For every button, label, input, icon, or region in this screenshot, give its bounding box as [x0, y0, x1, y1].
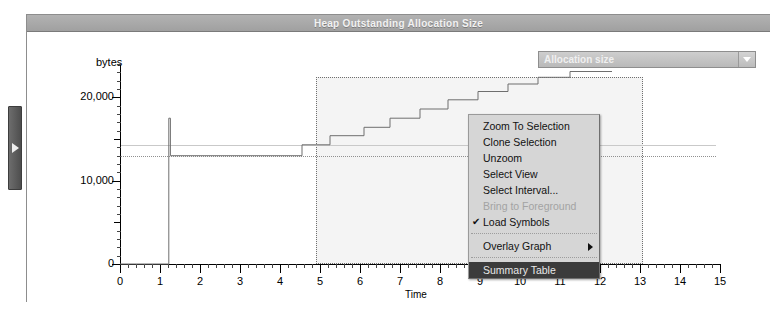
x-axis-tick-label: 3: [225, 275, 255, 287]
x-axis-minor-tick: [296, 264, 297, 268]
menu-item-label: Zoom To Selection: [483, 120, 570, 132]
y-axis-minor-tick: [117, 164, 121, 165]
x-axis-tick: [640, 264, 641, 273]
x-axis-minor-tick: [408, 264, 409, 268]
x-axis-tick: [240, 264, 241, 273]
x-axis-minor-tick: [688, 264, 689, 268]
x-axis-minor-tick: [176, 264, 177, 268]
x-axis-minor-tick: [424, 264, 425, 268]
x-axis-tick: [120, 264, 121, 273]
y-axis-minor-tick: [117, 231, 121, 232]
menu-item-unzoom[interactable]: Unzoom: [469, 150, 599, 166]
y-axis-title: bytes: [96, 56, 122, 68]
x-axis-minor-tick: [704, 264, 705, 268]
y-axis-minor-tick: [117, 172, 121, 173]
x-axis-minor-tick: [456, 264, 457, 268]
menu-item-select-view[interactable]: Select View: [469, 166, 599, 182]
x-axis-minor-tick: [664, 264, 665, 268]
menu-item-overlay-graph[interactable]: Overlay Graph: [469, 238, 599, 254]
x-axis-tick: [400, 264, 401, 273]
y-axis-minor-tick: [117, 64, 121, 65]
x-axis-tick: [680, 264, 681, 273]
y-axis-minor-tick: [117, 81, 121, 82]
chevron-down-icon[interactable]: [738, 52, 755, 67]
menu-item-label: Summary Table: [483, 264, 556, 276]
x-axis-minor-tick: [136, 264, 137, 268]
y-axis-minor-tick: [117, 114, 121, 115]
x-axis-minor-tick: [712, 264, 713, 268]
x-axis-tick-label: 4: [265, 275, 295, 287]
x-axis-minor-tick: [608, 264, 609, 268]
menu-item-label: Unzoom: [483, 152, 522, 164]
y-axis-minor-tick: [117, 197, 121, 198]
x-axis-minor-tick: [224, 264, 225, 268]
x-axis-minor-tick: [304, 264, 305, 268]
x-axis-minor-tick: [288, 264, 289, 268]
x-axis-minor-tick: [216, 264, 217, 268]
screenshot-root: Heap Outstanding Allocation Size bytes T…: [0, 0, 776, 323]
x-axis-minor-tick: [632, 264, 633, 268]
menu-item-clone-selection[interactable]: Clone Selection: [469, 134, 599, 150]
x-axis-minor-tick: [464, 264, 465, 268]
x-axis-tick: [320, 264, 321, 273]
x-axis-minor-tick: [184, 264, 185, 268]
x-axis-minor-tick: [336, 264, 337, 268]
metric-select[interactable]: Allocation size: [538, 51, 756, 68]
x-axis-minor-tick: [392, 264, 393, 268]
x-axis-minor-tick: [616, 264, 617, 268]
x-axis-tick-label: 14: [665, 275, 695, 287]
x-axis-minor-tick: [344, 264, 345, 268]
metric-select-value: Allocation size: [539, 54, 738, 65]
menu-item-label: Select Interval...: [483, 184, 558, 196]
menu-item-zoom-to-selection[interactable]: Zoom To Selection: [469, 118, 599, 134]
x-axis-tick-label: 8: [425, 275, 455, 287]
y-axis-minor-tick: [117, 214, 121, 215]
menu-item-label: Load Symbols: [483, 216, 550, 228]
x-axis-tick: [200, 264, 201, 273]
x-axis-tick-label: 13: [625, 275, 655, 287]
x-axis-minor-tick: [256, 264, 257, 268]
x-axis-minor-tick: [696, 264, 697, 268]
x-axis-tick-label: 7: [385, 275, 415, 287]
expand-right-triangle-icon: [12, 143, 19, 153]
y-axis-tick-label: 20,000: [80, 90, 114, 102]
x-axis-minor-tick: [312, 264, 313, 268]
x-axis-minor-tick: [328, 264, 329, 268]
chart-reference-line: [121, 156, 716, 157]
x-axis-minor-tick: [264, 264, 265, 268]
y-axis-minor-tick: [117, 147, 121, 148]
x-axis-minor-tick: [152, 264, 153, 268]
x-axis-tick-label: 6: [345, 275, 375, 287]
y-axis-minor-tick: [117, 189, 121, 190]
y-axis-minor-tick: [117, 131, 121, 132]
x-axis-minor-tick: [416, 264, 417, 268]
side-panel-expand-handle[interactable]: [8, 106, 22, 190]
x-axis-minor-tick: [432, 264, 433, 268]
x-axis-minor-tick: [352, 264, 353, 268]
y-axis-tick-label: 0: [108, 257, 114, 269]
context-menu[interactable]: Zoom To SelectionClone SelectionUnzoomSe…: [468, 114, 600, 279]
menu-separator: [471, 257, 597, 259]
x-axis-minor-tick: [248, 264, 249, 268]
x-axis-tick-label: 15: [705, 275, 735, 287]
y-axis-minor-tick: [117, 256, 121, 257]
x-axis-line: [120, 264, 720, 265]
y-axis-minor-tick: [117, 239, 121, 240]
x-axis-tick-label: 5: [305, 275, 335, 287]
y-axis-minor-tick: [117, 247, 121, 248]
menu-separator: [471, 233, 597, 235]
x-axis-tick: [280, 264, 281, 273]
x-axis-tick: [160, 264, 161, 273]
y-axis-minor-tick: [117, 89, 121, 90]
menu-item-summary-table[interactable]: Summary Table: [469, 262, 599, 278]
x-axis-minor-tick: [624, 264, 625, 268]
x-axis-minor-tick: [232, 264, 233, 268]
menu-item-load-symbols[interactable]: ✔Load Symbols: [469, 214, 599, 230]
chart-reference-line: [121, 145, 716, 146]
x-axis-minor-tick: [208, 264, 209, 268]
y-axis-minor-tick: [117, 122, 121, 123]
menu-item-label: Select View: [483, 168, 538, 180]
menu-item-bring-to-foreground: Bring to Foreground: [469, 198, 599, 214]
menu-item-label: Overlay Graph: [483, 240, 551, 252]
menu-item-select-interval[interactable]: Select Interval...: [469, 182, 599, 198]
